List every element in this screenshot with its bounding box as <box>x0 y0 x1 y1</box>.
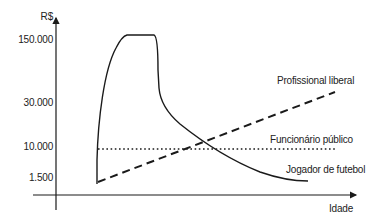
y-tick-10000: 10.000 <box>24 141 53 152</box>
y-axis-unit-label: R$ <box>41 11 53 22</box>
x-axis-label: Idade <box>329 203 353 214</box>
income-by-age-chart: R$ 150.000 30.000 10.000 1.500 Idade Pro… <box>0 0 375 220</box>
series-label-profissional-liberal: Profissional liberal <box>277 75 354 86</box>
series-label-jogador-futebol: Jogador de futebol <box>286 164 365 175</box>
y-tick-1500: 1.500 <box>29 172 53 183</box>
y-tick-30000: 30.000 <box>24 97 53 108</box>
chart-canvas <box>0 0 375 220</box>
series-label-funcionario-publico: Funcionário público <box>270 134 353 145</box>
series-jogador-futebol-line <box>97 35 308 184</box>
y-tick-150000: 150.000 <box>18 34 53 45</box>
